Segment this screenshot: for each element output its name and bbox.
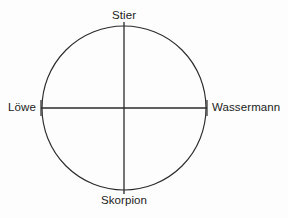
- axis-label-bottom-skorpion: Skorpion: [101, 194, 147, 207]
- axis-label-top-stier: Stier: [112, 9, 136, 22]
- diagram-page: Stier Wassermann Skorpion Löwe: [0, 0, 288, 218]
- axis-label-left-loewe: Löwe: [8, 101, 36, 114]
- axis-label-right-wassermann: Wassermann: [212, 101, 280, 114]
